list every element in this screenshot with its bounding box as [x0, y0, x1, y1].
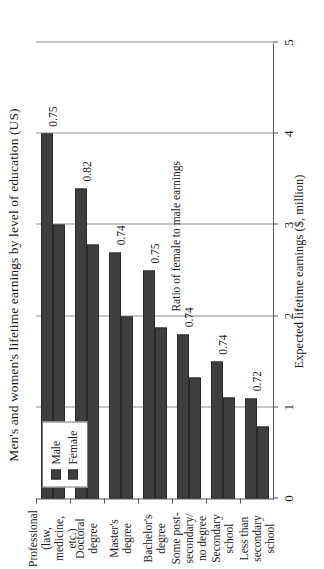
bar-female	[257, 426, 269, 498]
legend-label-male: Male	[48, 440, 65, 464]
tick-mark	[273, 41, 278, 42]
tick-mark	[273, 315, 278, 316]
bar-male	[177, 334, 189, 498]
rotated-figure-wrapper: Men's and women's lifetime earnings by l…	[0, 0, 324, 569]
tick-mark	[273, 406, 278, 407]
legend-label-female: Female	[65, 430, 82, 464]
bar-female	[189, 377, 201, 498]
bar-female	[121, 316, 133, 498]
category-label: Some post- secondary/ no degree	[170, 507, 209, 569]
ratio-label: 0.75	[149, 243, 161, 263]
category-label: Professional (law, medicine, etc.)	[27, 507, 79, 569]
chart-figure: Men's and women's lifetime earnings by l…	[0, 0, 324, 569]
legend-swatch-female-icon	[68, 469, 78, 479]
legend-item-male: Male	[48, 430, 65, 479]
category-tick	[138, 498, 139, 503]
ratio-label: 0.72	[251, 371, 263, 391]
plot-area: 012345 Less than secondary schoolSeconda…	[36, 43, 274, 499]
gridline	[36, 223, 273, 224]
chart-legend: Male Female	[42, 421, 88, 487]
tick-mark	[273, 497, 278, 498]
bar-male	[211, 361, 223, 498]
value-axis-title: Expected lifetime earnings ($, million)	[292, 43, 307, 499]
category-label: Secondary school	[210, 507, 236, 569]
ratio-label: 0.75	[47, 106, 59, 126]
bar-female	[223, 397, 235, 498]
ratio-label: 0.74	[115, 225, 127, 245]
category-label: Bachelor's degree	[142, 507, 168, 569]
gridline	[36, 132, 273, 133]
ratio-note: Ratio of female to male earnings	[170, 161, 182, 311]
legend-item-female: Female	[65, 430, 82, 479]
tick-mark	[273, 223, 278, 224]
gridline	[36, 41, 273, 42]
category-tick	[104, 498, 105, 503]
category-tick	[36, 498, 37, 503]
bar-male	[109, 252, 121, 498]
ratio-label: 0.74	[183, 307, 195, 327]
bar-female	[155, 327, 167, 498]
ratio-label: 0.74	[217, 334, 229, 354]
ratio-label: 0.82	[81, 161, 93, 181]
tick-mark	[273, 132, 278, 133]
category-tick	[172, 498, 173, 503]
legend-swatch-male-icon	[51, 469, 61, 479]
bar-male	[143, 270, 155, 498]
category-label: Less than secondary school	[238, 507, 277, 569]
bar-male	[245, 398, 257, 498]
chart-title: Men's and women's lifetime earnings by l…	[6, 0, 22, 569]
category-tick	[240, 498, 241, 503]
category-label: Master's degree	[108, 507, 134, 569]
category-tick	[70, 498, 71, 503]
bar-female	[87, 244, 99, 498]
category-tick	[206, 498, 207, 503]
